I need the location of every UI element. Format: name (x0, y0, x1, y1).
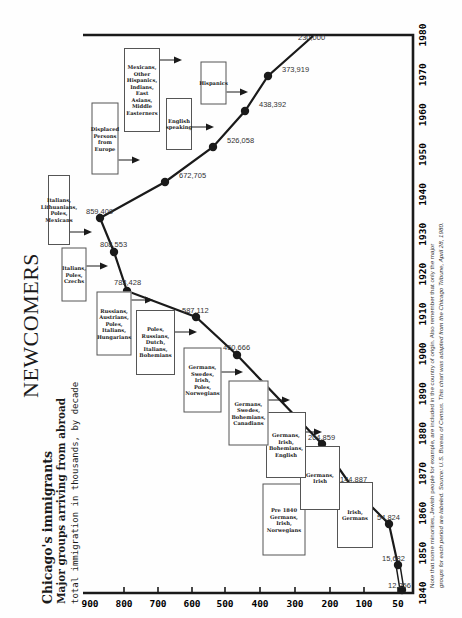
data-label: 808,553 (100, 240, 127, 249)
data-label: 859,409 (86, 207, 113, 216)
data-label: 373,919 (282, 65, 309, 74)
y-tick-label: 800 (115, 598, 132, 609)
data-label: 438,392 (259, 100, 286, 109)
data-label: 450,666 (223, 343, 250, 352)
line-chart: 5010020030040050060070080090018401850186… (0, 0, 462, 618)
x-tick-label: 1860 (417, 502, 428, 525)
x-tick-label: 1870 (417, 462, 428, 485)
annotation-box: English speaking (166, 98, 192, 150)
annotation-box: Italians, Poles, Czechs (61, 248, 86, 302)
annotation-box: Germans, Irish, Bohemians, English (266, 412, 306, 478)
x-tick-label: 1940 (417, 183, 428, 206)
data-point (110, 248, 118, 256)
data-point (161, 178, 169, 186)
data-label: 672,705 (179, 171, 206, 180)
data-label: 15,682 (382, 554, 405, 563)
annotation-box: Pre 1840 Germans, Irish, Norwegians (262, 484, 305, 556)
arrow-head-icon (100, 263, 108, 270)
data-label: 230,000 (298, 33, 325, 42)
x-tick-label: 1890 (417, 382, 428, 405)
arrow-head-icon (206, 124, 214, 131)
annotation-box: Germans, Swedes, Irish, Poles, Norwegian… (183, 348, 221, 413)
data-label: 526,058 (227, 136, 254, 145)
annotation-box: Germans, Irish (300, 446, 340, 510)
annotation-box: Poles, Russians, Dutch, Italians, Bohemi… (136, 310, 175, 375)
annotation-box: Italians, Lithuanians, Poles, Mexicans (48, 175, 70, 245)
y-tick-label: 100 (355, 598, 372, 609)
data-point (241, 107, 249, 115)
data-point (264, 72, 272, 80)
arrow-head-icon (84, 229, 92, 236)
arrow-head-icon (174, 57, 182, 64)
footnote-line-1: Note that some minorities, Jewish people… (428, 244, 435, 588)
y-tick-label: 700 (149, 598, 166, 609)
data-point (209, 143, 217, 151)
rotated-page: NEWCOMERS Chicago's immigrants Major gro… (0, 0, 462, 618)
y-tick-label: 200 (321, 598, 338, 609)
y-tick-label: 900 (81, 598, 98, 609)
annotation-box: Germans, Swedes, Bohemians, Canadians (228, 381, 268, 446)
annotation-box: Russians, Austrians, Poles, Italians, Hu… (96, 292, 131, 356)
data-point (233, 351, 241, 359)
footnote-line-2: groups for each period are labeled. Sour… (437, 222, 444, 588)
x-tick-label: 1880 (417, 422, 428, 445)
x-tick-label: 1970 (417, 63, 428, 86)
y-tick-label: 300 (286, 598, 303, 609)
data-label: 204,859 (308, 433, 335, 442)
x-tick-label: 1980 (417, 23, 428, 46)
y-tick-label: 50 (392, 598, 404, 609)
y-tick-label: 400 (251, 598, 268, 609)
arrow-head-icon (240, 89, 248, 96)
annotation-box: Irish, Germans (337, 482, 373, 548)
data-label: 54,824 (377, 513, 400, 522)
data-label: 12,256 (388, 581, 411, 590)
x-tick-label: 1840 (417, 581, 428, 604)
x-tick-label: 1910 (417, 302, 428, 325)
x-tick-label: 1950 (417, 143, 428, 166)
annotation-box: Displaced Persons from Europe (91, 103, 118, 175)
y-tick-label: 600 (183, 598, 200, 609)
arrow-head-icon (132, 157, 140, 164)
arrow-head-icon (189, 329, 197, 336)
data-label: 783,428 (114, 278, 141, 287)
data-label: 587,112 (182, 306, 209, 315)
y-tick-label: 500 (216, 598, 233, 609)
x-tick-label: 1960 (417, 103, 428, 126)
arrow-head-icon (235, 369, 243, 376)
x-tick-label: 1850 (417, 541, 428, 564)
x-tick-label: 1900 (417, 342, 428, 365)
x-tick-label: 1920 (417, 262, 428, 285)
annotation-box: Hispanics (200, 62, 226, 105)
x-tick-label: 1930 (417, 223, 428, 246)
annotation-box: Mexicans, Other Hispanics, Indians, East… (124, 48, 160, 132)
